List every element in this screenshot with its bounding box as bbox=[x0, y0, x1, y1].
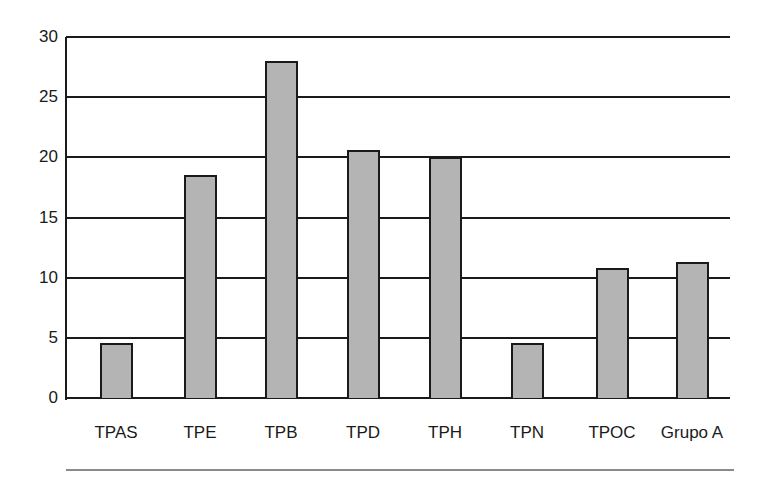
x-tick-label: TPOC bbox=[567, 424, 657, 441]
bar-tpoc bbox=[596, 268, 629, 398]
x-tick-label: TPB bbox=[236, 424, 326, 441]
y-tick-label: 30 bbox=[18, 28, 58, 45]
x-tick-label: TPH bbox=[400, 424, 490, 441]
gridline bbox=[66, 156, 730, 158]
gridline bbox=[66, 217, 730, 219]
gridline bbox=[66, 277, 730, 279]
x-tick-label: TPAS bbox=[71, 424, 161, 441]
x-tick-label: TPN bbox=[482, 424, 572, 441]
x-tick-label: Grupo A bbox=[647, 424, 737, 441]
bar-tpd bbox=[347, 150, 380, 398]
gridline bbox=[66, 397, 730, 399]
y-tick-label: 25 bbox=[18, 88, 58, 105]
y-tick-label: 10 bbox=[18, 269, 58, 286]
gridline bbox=[66, 96, 730, 98]
bar-tpn bbox=[511, 343, 544, 398]
bar-chart: 051015202530TPASTPETPBTPDTPHTPNTPOCGrupo… bbox=[0, 0, 764, 477]
gridline bbox=[66, 36, 730, 38]
gridline bbox=[66, 337, 730, 339]
bar-tph bbox=[429, 157, 462, 398]
y-axis bbox=[65, 37, 67, 400]
bar-tpe bbox=[184, 175, 217, 398]
bar-tpas bbox=[100, 343, 133, 398]
y-tick-label: 0 bbox=[18, 389, 58, 406]
y-tick-label: 5 bbox=[18, 329, 58, 346]
y-tick-label: 20 bbox=[18, 148, 58, 165]
x-tick-label: TPD bbox=[318, 424, 408, 441]
y-tick-label: 15 bbox=[18, 209, 58, 226]
bottom-rule bbox=[66, 469, 734, 471]
x-tick-label: TPE bbox=[155, 424, 245, 441]
bar-grupo-a bbox=[676, 262, 709, 398]
bar-tpb bbox=[265, 61, 298, 398]
